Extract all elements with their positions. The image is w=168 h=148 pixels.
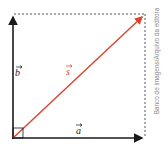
- label-b: b: [15, 67, 20, 78]
- vector-a-label: a: [76, 124, 82, 137]
- vector-diagram: b s a: [0, 0, 168, 148]
- credit-text: Banco de imagens/Arquivo da editora: [153, 8, 160, 115]
- label-s: s: [66, 66, 70, 77]
- image-credit: Banco de imagens/Arquivo da editora: [150, 2, 162, 120]
- vector-b-label: b: [15, 66, 22, 79]
- vector-s-label: s: [66, 65, 72, 78]
- vector-s-arrow: [13, 17, 142, 138]
